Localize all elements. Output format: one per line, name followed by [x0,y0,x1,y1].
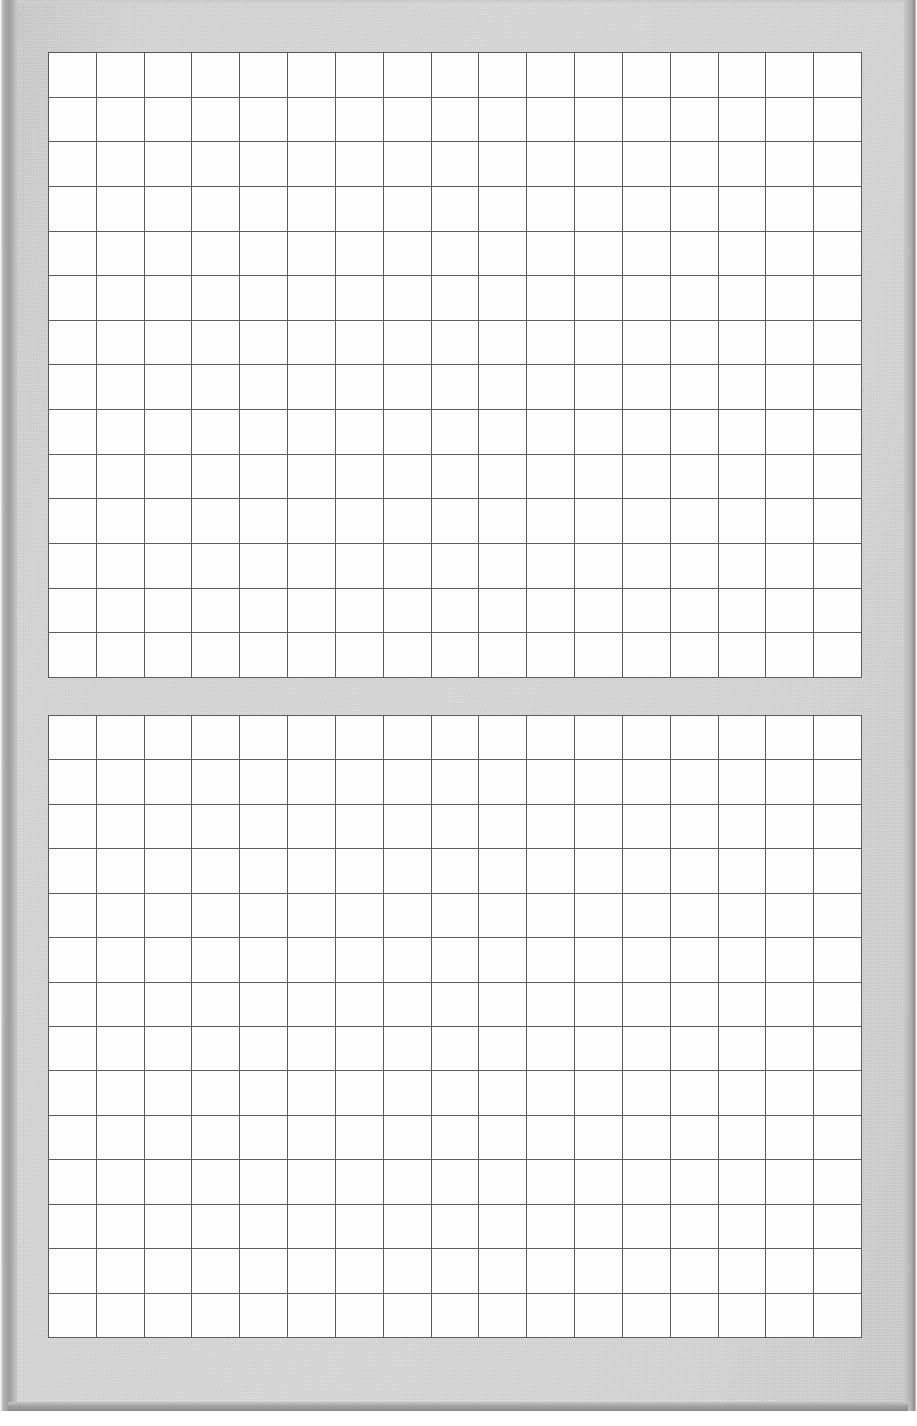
grid-cell[interactable] [479,1205,527,1249]
grid-cell[interactable] [479,455,527,500]
grid-cell[interactable] [145,760,193,804]
grid-cell[interactable] [575,1205,623,1249]
grid-cell[interactable] [671,455,719,500]
grid-cell[interactable] [288,1116,336,1160]
grid-cell[interactable] [719,1205,767,1249]
grid-cell[interactable] [479,499,527,544]
grid-cell[interactable] [240,410,288,455]
grid-cell[interactable] [97,805,145,849]
grid-cell[interactable] [97,849,145,893]
grid-cell[interactable] [145,1160,193,1204]
grid-cell[interactable] [49,760,97,804]
grid-cell[interactable] [240,1027,288,1071]
grid-cell[interactable] [575,938,623,982]
grid-cell[interactable] [766,1294,814,1338]
grid-cell[interactable] [49,938,97,982]
grid-cell[interactable] [814,1027,862,1071]
grid-cell[interactable] [719,805,767,849]
grid-cell[interactable] [384,321,432,366]
grid-cell[interactable] [719,544,767,589]
grid-cell[interactable] [145,142,193,187]
grid-cell[interactable] [145,633,193,678]
grid-cell[interactable] [623,499,671,544]
grid-cell[interactable] [719,938,767,982]
grid-cell[interactable] [49,53,97,98]
grid-cell[interactable] [288,499,336,544]
grid-cell[interactable] [192,1160,240,1204]
grid-cell[interactable] [240,1160,288,1204]
grid-cell[interactable] [432,276,480,321]
grid-cell[interactable] [432,365,480,410]
grid-cell[interactable] [623,894,671,938]
grid-cell[interactable] [384,938,432,982]
grid-cell[interactable] [336,232,384,277]
grid-cell[interactable] [719,53,767,98]
grid-cell[interactable] [97,1205,145,1249]
grid-cell[interactable] [240,187,288,232]
grid-cell[interactable] [49,1071,97,1115]
grid-cell[interactable] [336,276,384,321]
grid-cell[interactable] [97,410,145,455]
grid-cell[interactable] [575,1071,623,1115]
grid-cell[interactable] [575,232,623,277]
grid-cell[interactable] [527,232,575,277]
grid-cell[interactable] [384,983,432,1027]
grid-cell[interactable] [623,365,671,410]
grid-cell[interactable] [288,365,336,410]
grid-cell[interactable] [49,1027,97,1071]
grid-cell[interactable] [240,1116,288,1160]
grid-cell[interactable] [145,1027,193,1071]
grid-cell[interactable] [432,1205,480,1249]
grid-cell[interactable] [288,716,336,760]
grid-cell[interactable] [384,499,432,544]
grid-cell[interactable] [97,1071,145,1115]
grid-cell[interactable] [719,455,767,500]
grid-cell[interactable] [97,589,145,634]
grid-cell[interactable] [240,1205,288,1249]
grid-cell[interactable] [432,53,480,98]
grid-cell[interactable] [623,1027,671,1071]
grid-cell[interactable] [240,1249,288,1293]
grid-cell[interactable] [240,98,288,143]
grid-cell[interactable] [623,589,671,634]
grid-cell[interactable] [192,544,240,589]
grid-cell[interactable] [814,98,862,143]
grid-cell[interactable] [766,716,814,760]
grid-cell[interactable] [97,1116,145,1160]
grid-cell[interactable] [766,365,814,410]
grid-cell[interactable] [49,321,97,366]
grid-cell[interactable] [49,983,97,1027]
grid-cell[interactable] [479,321,527,366]
grid-cell[interactable] [527,1205,575,1249]
grid-cell[interactable] [575,983,623,1027]
grid-cell[interactable] [814,544,862,589]
grid-cell[interactable] [192,633,240,678]
grid-cell[interactable] [479,53,527,98]
grid-cell[interactable] [240,760,288,804]
grid-cell[interactable] [719,589,767,634]
grid-cell[interactable] [766,1027,814,1071]
grid-cell[interactable] [49,716,97,760]
grid-cell[interactable] [240,1071,288,1115]
grid-cell[interactable] [49,894,97,938]
grid-cell[interactable] [336,53,384,98]
grid-cell[interactable] [814,983,862,1027]
grid-cell[interactable] [671,232,719,277]
grid-cell[interactable] [623,849,671,893]
grid-cell[interactable] [671,760,719,804]
grid-cell[interactable] [240,716,288,760]
grid-cell[interactable] [240,365,288,410]
grid-cell[interactable] [49,455,97,500]
grid-cell[interactable] [575,187,623,232]
grid-cell[interactable] [527,410,575,455]
grid-cell[interactable] [766,849,814,893]
grid-cell[interactable] [814,142,862,187]
grid-cell[interactable] [623,142,671,187]
grid-cell[interactable] [49,849,97,893]
grid-cell[interactable] [719,98,767,143]
grid-cell[interactable] [145,187,193,232]
grid-cell[interactable] [719,321,767,366]
grid-cell[interactable] [336,983,384,1027]
grid-cell[interactable] [527,98,575,143]
grid-cell[interactable] [288,938,336,982]
